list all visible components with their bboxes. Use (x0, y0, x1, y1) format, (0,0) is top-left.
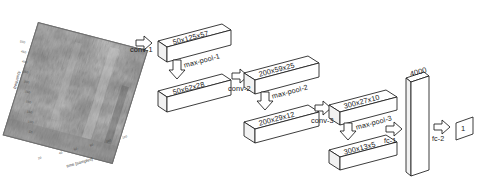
arrow-fc-2 (434, 120, 450, 134)
arrow-max-pool-3 (340, 123, 356, 140)
architecture-svg (0, 0, 481, 194)
label-conv-2: conv-2 (228, 85, 251, 92)
label-fc-2: fc-2 (432, 135, 444, 142)
arrow-fc-1 (386, 122, 402, 136)
layer-box-conv1-out (158, 24, 231, 62)
layer-box-pool1-out (158, 74, 231, 112)
figure-canvas: 500 450 400 350 300 250 200 150 100 50 2… (0, 0, 481, 194)
label-fc2-units: 1 (461, 125, 465, 133)
label-conv-1: conv-1 (130, 46, 153, 53)
label-fc-1: fc-1 (384, 137, 396, 144)
label-conv-3: conv-3 (311, 117, 334, 124)
layer-bar-fc1-out (406, 72, 429, 176)
layer-box-pool2-out (244, 105, 319, 143)
